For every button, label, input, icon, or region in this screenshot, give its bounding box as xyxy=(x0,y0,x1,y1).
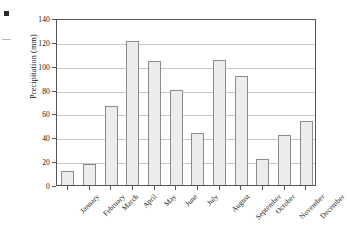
x-axis-tick-label: August xyxy=(229,192,251,214)
y-axis-tick-label: 100 xyxy=(4,62,50,71)
bar xyxy=(61,171,74,185)
x-axis-tick-label: May xyxy=(162,192,178,208)
bar xyxy=(83,164,96,185)
bar xyxy=(256,159,269,185)
x-axis-tick-mark xyxy=(132,186,133,190)
bar xyxy=(148,61,161,185)
x-axis-tick-label: July xyxy=(205,192,220,207)
y-axis-tick-label: 120 xyxy=(4,38,50,47)
x-axis-tick-mark xyxy=(284,186,285,190)
y-axis-tick-label: 140 xyxy=(4,15,50,24)
x-axis-tick-label: June xyxy=(183,192,199,208)
bar xyxy=(278,135,291,185)
bar xyxy=(213,60,226,185)
bar-group xyxy=(57,20,315,185)
x-axis-tick-mark xyxy=(197,186,198,190)
x-axis-tick-mark xyxy=(262,186,263,190)
bar xyxy=(126,41,139,185)
bar xyxy=(170,90,183,185)
x-axis-tick-mark xyxy=(240,186,241,190)
plot-area xyxy=(56,19,316,186)
y-axis-tick-label: 40 xyxy=(4,134,50,143)
bar xyxy=(300,121,313,185)
y-axis-tick-label: 80 xyxy=(4,86,50,95)
x-axis-tick-label: April xyxy=(141,192,159,210)
y-axis-tick-label: 60 xyxy=(4,110,50,119)
x-axis-tick-label: January xyxy=(78,192,101,215)
x-axis-tick-mark xyxy=(219,186,220,190)
x-axis-tick-mark xyxy=(154,186,155,190)
bar xyxy=(235,76,248,185)
y-axis-tick-label: 20 xyxy=(4,158,50,167)
bar xyxy=(191,133,204,185)
x-axis-tick-mark xyxy=(110,186,111,190)
x-axis-tick-mark xyxy=(175,186,176,190)
x-axis-tick-mark xyxy=(89,186,90,190)
y-axis-tick-mark xyxy=(52,186,56,187)
bar xyxy=(105,106,118,185)
x-axis-tick-mark xyxy=(67,186,68,190)
y-axis-tick-label: 0 xyxy=(4,182,50,191)
x-axis-tick-mark xyxy=(305,186,306,190)
